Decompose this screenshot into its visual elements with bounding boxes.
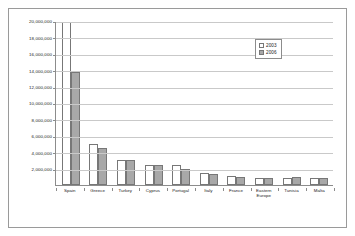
x-axis-tick-label: Cyprus (139, 188, 167, 198)
x-axis-tick-label: Malta (305, 188, 333, 198)
x-axis-tick-label: Italy (195, 188, 223, 198)
x-axis-tick-label: France (222, 188, 250, 198)
y-axis-tick-label: 16,000,000 (29, 52, 52, 57)
bar-2003[interactable] (89, 144, 98, 185)
gridline (56, 38, 333, 39)
y-axis-tick (53, 104, 56, 105)
bar-2003[interactable] (172, 165, 181, 185)
y-axis-tick-label: 20,000,000 (29, 19, 52, 24)
bar-2006[interactable] (292, 177, 301, 185)
bar-2006[interactable] (264, 178, 273, 185)
y-axis-tick (53, 38, 56, 39)
bar-2003[interactable] (310, 178, 319, 185)
y-axis-tick-label: 10,000,000 (29, 101, 52, 106)
x-axis-tick (251, 188, 252, 191)
y-axis-tick-label: 18,000,000 (29, 36, 52, 41)
legend-entry-label: 2006 (266, 50, 277, 55)
bar-2003[interactable] (117, 160, 126, 185)
x-axis-tick (306, 188, 307, 191)
plot-area (55, 22, 333, 186)
y-axis-tick (53, 71, 56, 72)
x-axis-tick (195, 188, 196, 191)
y-axis-tick-label: 14,000,000 (29, 69, 52, 74)
bar-2006[interactable] (319, 178, 328, 185)
x-axis-tick (278, 188, 279, 191)
legend-swatch-2003 (259, 43, 264, 48)
chart-legend: 20032006 (255, 39, 282, 59)
bar-2003[interactable] (255, 178, 264, 185)
gridline (56, 88, 333, 89)
gridline (56, 71, 333, 72)
gridline (56, 120, 333, 121)
x-axis-tick-label: Spain (56, 188, 84, 198)
x-axis-tick (139, 188, 140, 191)
legend-entry[interactable]: 2006 (259, 49, 277, 56)
y-axis-tick (53, 137, 56, 138)
gridline (56, 55, 333, 56)
y-axis-tick-label: 4,000,000 (32, 151, 52, 156)
y-axis-tick (53, 170, 56, 171)
x-axis-tick (84, 188, 85, 191)
bar-2003[interactable] (200, 173, 209, 185)
legend-entry-label: 2003 (266, 43, 277, 48)
gridline (56, 137, 333, 138)
y-axis-tick-label: 8,000,000 (32, 118, 52, 123)
y-axis-tick (53, 88, 56, 89)
y-axis-tick (53, 55, 56, 56)
x-axis-tick (334, 188, 335, 191)
y-axis-tick (53, 153, 56, 154)
gridline (56, 22, 333, 23)
bar-2003[interactable] (145, 165, 154, 186)
bar-2006[interactable] (126, 160, 135, 185)
gridline (56, 104, 333, 105)
gridline (56, 170, 333, 171)
x-axis-labels: SpainGreeceTurkeyCyprusPortugalItalyFran… (56, 188, 333, 198)
y-axis-tick (53, 120, 56, 121)
y-axis-tick-label: 6,000,000 (32, 134, 52, 139)
legend-entry[interactable]: 2003 (259, 42, 277, 49)
bar-2006[interactable] (209, 174, 218, 185)
x-axis-tick (167, 188, 168, 191)
x-axis-tick-label: Eastern Europe (250, 188, 278, 198)
x-axis-tick (223, 188, 224, 191)
gridline (56, 153, 333, 154)
chart-page: 20,000,00018,000,00016,000,00014,000,000… (0, 0, 355, 236)
bar-2006[interactable] (181, 169, 190, 185)
bar-2003[interactable] (227, 176, 236, 185)
bar-2006[interactable] (71, 72, 80, 185)
bar-2003[interactable] (283, 178, 292, 185)
y-axis-tick-label: 12,000,000 (29, 85, 52, 90)
y-axis-tick-label: 2,000,000 (32, 167, 52, 172)
bar-2006[interactable] (236, 177, 245, 185)
legend-swatch-2006 (259, 50, 264, 55)
x-axis-tick (56, 188, 57, 191)
x-axis-tick-label: Tunisia (278, 188, 306, 198)
y-axis-tick (53, 22, 56, 23)
bar-2006[interactable] (154, 165, 163, 185)
y-axis-labels: 20,000,00018,000,00016,000,00014,000,000… (10, 22, 52, 186)
x-axis-tick (112, 188, 113, 191)
x-axis-tick-label: Turkey (111, 188, 139, 198)
x-axis-tick-label: Portugal (167, 188, 195, 198)
x-axis-tick-label: Greece (84, 188, 112, 198)
